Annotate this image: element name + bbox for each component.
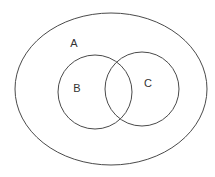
set-b-label: B — [73, 82, 80, 94]
set-a-label: A — [70, 37, 78, 49]
set-c-circle — [105, 52, 179, 126]
set-a-ellipse — [15, 13, 207, 165]
set-c-label: C — [144, 77, 152, 89]
venn-diagram: A B C — [0, 0, 215, 177]
set-b-circle — [58, 55, 132, 129]
